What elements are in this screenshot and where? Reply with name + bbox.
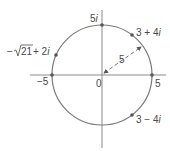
point-5	[150, 73, 154, 77]
svg-text:+ 2i: + 2i	[33, 46, 50, 57]
label-3-minus-4i: 3 − 4i	[136, 114, 162, 125]
label-neg-sqrt21-plus-2i: − 21 + 2i	[7, 45, 50, 57]
complex-plane-diagram: 0 −5 5 5i 5 3 + 4i 3 − 4i − 21 + 2i	[0, 0, 170, 151]
point-3-minus-4i	[130, 113, 134, 117]
label-5: 5	[155, 78, 161, 89]
svg-text:21: 21	[21, 46, 33, 57]
label-origin: 0	[96, 78, 102, 89]
label-3-plus-4i: 3 + 4i	[136, 27, 162, 38]
label-neg-5: −5	[37, 76, 49, 87]
point-neg-sqrt21-plus-2i	[54, 53, 58, 57]
point-3-plus-4i	[130, 33, 134, 37]
point-neg-5	[50, 73, 54, 77]
label-5i: 5i	[90, 13, 99, 24]
svg-text:−: −	[7, 46, 13, 57]
label-radius: 5	[119, 54, 125, 65]
point-5i	[100, 23, 104, 27]
